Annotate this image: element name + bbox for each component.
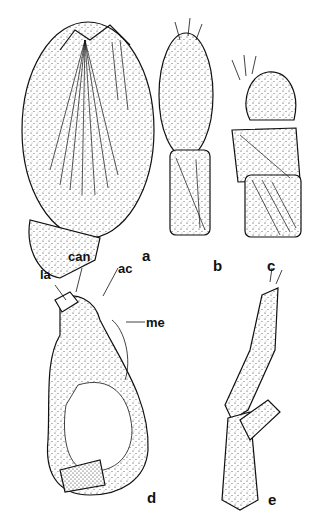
panel-c-drawing bbox=[232, 55, 301, 237]
panel-e-drawing bbox=[222, 268, 282, 510]
figure-plate: a b c d e la can ac me bbox=[0, 0, 312, 523]
annotation-la: la bbox=[40, 268, 51, 281]
panel-label-c: c bbox=[267, 258, 275, 273]
annotation-can: can bbox=[68, 250, 90, 263]
annotation-ac: ac bbox=[118, 262, 132, 275]
panel-b-drawing bbox=[159, 18, 213, 235]
panel-label-b: b bbox=[213, 258, 222, 273]
illustration-drawing bbox=[0, 0, 312, 523]
panel-label-e: e bbox=[268, 492, 276, 507]
panel-a-drawing bbox=[22, 22, 154, 278]
panel-label-d: d bbox=[147, 490, 156, 505]
panel-d-drawing bbox=[47, 292, 148, 495]
panel-label-a: a bbox=[142, 248, 150, 263]
annotation-me: me bbox=[146, 316, 165, 329]
